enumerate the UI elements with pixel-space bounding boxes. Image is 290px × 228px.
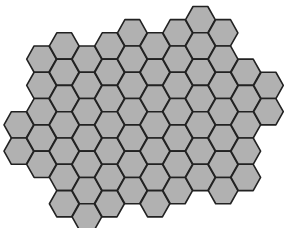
hexagon-cell: [231, 164, 261, 190]
hexagon-cell: [208, 20, 238, 46]
hexagon-cell: [231, 138, 261, 164]
hexagon-cell: [254, 99, 284, 125]
hexagon-cell: [254, 72, 284, 98]
hexagon-grid: [0, 0, 290, 228]
